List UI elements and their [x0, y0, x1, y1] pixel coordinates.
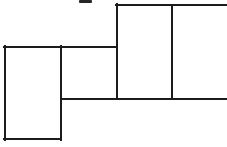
figure-canvas	[0, 0, 227, 147]
ink-smudge-artifact	[79, 0, 92, 3]
line-drawing-svg	[0, 0, 227, 147]
